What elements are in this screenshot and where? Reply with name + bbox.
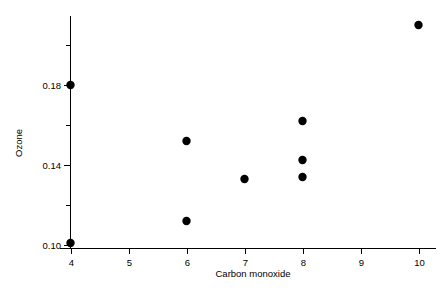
- data-point: [66, 81, 74, 89]
- x-axis: 45678910 Carbon monoxide: [60, 249, 436, 280]
- x-tick-label: 10: [414, 257, 425, 268]
- scatter-plot-figure: 0.100.140.18 Ozone 45678910 Carbon monox…: [0, 0, 444, 293]
- y-tick-label: 0.18: [43, 80, 62, 91]
- x-tick-label: 7: [243, 257, 248, 268]
- x-tick-label: 4: [69, 257, 74, 268]
- data-point: [298, 117, 306, 125]
- x-axis-major-ticks: [72, 249, 420, 255]
- data-point: [182, 137, 190, 145]
- y-axis-major-ticks: [64, 86, 71, 246]
- x-tick-label: 6: [185, 257, 190, 268]
- x-tick-label: 8: [301, 257, 306, 268]
- data-point: [298, 156, 306, 164]
- data-point: [240, 175, 248, 183]
- data-point: [298, 173, 306, 181]
- x-axis-title: Carbon monoxide: [216, 268, 291, 279]
- y-axis-title: Ozone: [13, 129, 24, 157]
- y-axis-tick-labels: 0.100.140.18: [43, 80, 62, 251]
- y-axis: 0.100.140.18 Ozone: [13, 16, 71, 251]
- x-tick-label: 5: [127, 257, 132, 268]
- data-point: [66, 239, 74, 247]
- y-axis-minor-ticks: [66, 46, 71, 206]
- x-tick-label: 9: [359, 257, 364, 268]
- plot-canvas: 0.100.140.18 Ozone 45678910 Carbon monox…: [0, 0, 444, 293]
- y-tick-label: 0.10: [43, 240, 62, 251]
- data-point: [414, 21, 422, 29]
- data-point-series: [66, 21, 422, 247]
- y-tick-label: 0.14: [43, 160, 62, 171]
- data-point: [182, 217, 190, 225]
- x-axis-tick-labels: 45678910: [69, 257, 425, 268]
